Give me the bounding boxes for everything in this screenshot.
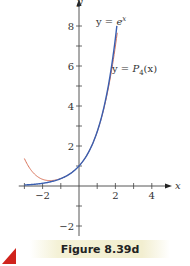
x-axis-arrow-icon	[165, 184, 172, 189]
y-axis-label: y	[76, 0, 83, 7]
y-tick-label: −2	[59, 221, 74, 232]
y-tick-label: 8	[68, 21, 74, 32]
curve-labels: y = ex y = P4(x)	[95, 15, 157, 77]
y-tick-label: 4	[68, 101, 74, 112]
label-exp: y = ex	[95, 15, 126, 27]
axes: xy−224−22468	[19, 0, 181, 236]
x-tick-label: 4	[149, 190, 155, 201]
x-axis-label: x	[175, 180, 181, 191]
y-tick-label: 6	[68, 61, 74, 72]
x-tick-label: 2	[112, 190, 118, 201]
figure-caption-bar: Figure 8.39d	[30, 240, 170, 258]
figure-caption: Figure 8.39d	[61, 243, 140, 256]
y-tick-label: 2	[68, 141, 74, 152]
label-p4: y = P4(x)	[111, 63, 157, 77]
chart-plot: xy−224−22468 y = ex y = P4(x)	[0, 0, 190, 236]
x-tick-label: −2	[35, 190, 50, 201]
corner-accent-triangle	[2, 248, 16, 264]
